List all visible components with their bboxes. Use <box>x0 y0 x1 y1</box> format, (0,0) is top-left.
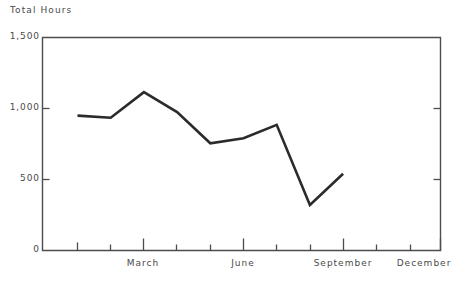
line-chart: Total Hours 1,500 1,000 500 0 March June… <box>0 0 461 282</box>
chart-canvas <box>0 0 461 282</box>
y-axis-ticks-left <box>43 109 50 180</box>
data-series-line <box>78 92 344 205</box>
plot-frame <box>43 38 441 251</box>
x-axis-ticks <box>78 239 441 251</box>
y-axis-ticks-right <box>434 109 441 180</box>
